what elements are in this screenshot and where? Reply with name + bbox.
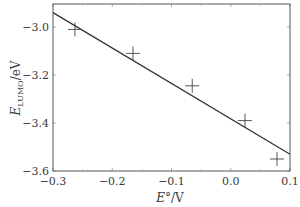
x-axis-label: E°/V [155, 191, 184, 205]
x-tick-label: 0.0 [222, 175, 240, 188]
data-point-marker [126, 46, 140, 60]
y-tick-label: −3.0 [22, 21, 49, 34]
x-tick-label: 0.1 [281, 175, 299, 188]
fit-line [53, 13, 290, 155]
y-tick-label: −3.6 [22, 165, 49, 178]
x-tick-label: −0.1 [158, 175, 185, 188]
axis-ticks [53, 4, 290, 171]
tick-labels: −0.3−0.2−0.10.00.1−3.6−3.4−3.2−3.0 [22, 21, 298, 188]
data-point-marker [185, 79, 199, 93]
y-axis-label: ELUMO/eV [9, 60, 25, 116]
plot-frame [53, 4, 290, 171]
chart: −0.3−0.2−0.10.00.1−3.6−3.4−3.2−3.0 E°/V … [0, 0, 300, 207]
data-point-marker [238, 114, 252, 128]
x-tick-label: −0.2 [99, 175, 126, 188]
data-point-marker [270, 152, 284, 166]
data-point-marker [68, 22, 82, 36]
y-tick-label: −3.4 [22, 117, 49, 130]
data-markers [68, 22, 284, 166]
y-tick-label: −3.2 [22, 69, 49, 82]
